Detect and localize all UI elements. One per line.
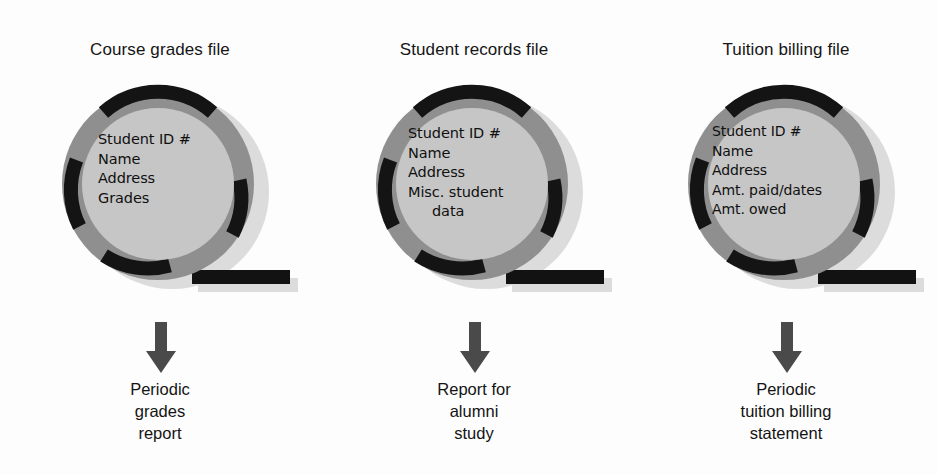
disk-platter-icon: Student ID # Name Address Misc. student … (360, 74, 600, 302)
output-line: alumni (318, 400, 630, 422)
file-column-student-records: Student records file Student ID # Name A… (318, 0, 630, 475)
file-column-course-grades: Course grades file (4, 0, 316, 475)
down-arrow-icon (144, 322, 178, 374)
down-arrow-icon (770, 322, 804, 374)
output-line: Periodic (630, 378, 937, 400)
output-line: Periodic (4, 378, 316, 400)
output-line: study (318, 422, 630, 444)
output-report-label: Periodic grades report (4, 378, 316, 444)
down-arrow-icon (458, 322, 492, 374)
file-environment-diagram: Course grades file (0, 0, 937, 475)
output-line: grades (4, 400, 316, 422)
output-line: statement (630, 422, 937, 444)
output-line: tuition billing (630, 400, 937, 422)
output-line: report (4, 422, 316, 444)
output-line: Report for (318, 378, 630, 400)
disk-platter-icon: Student ID # Name Address Amt. paid/date… (672, 74, 912, 302)
file-title: Course grades file (4, 40, 316, 60)
file-column-tuition-billing: Tuition billing file Student ID # Name A… (630, 0, 937, 475)
output-report-label: Periodic tuition billing statement (630, 378, 937, 444)
file-title: Tuition billing file (630, 40, 937, 60)
output-report-label: Report for alumni study (318, 378, 630, 444)
file-title: Student records file (318, 40, 630, 60)
disk-platter-icon: Student ID # Name Address Grades (46, 74, 286, 302)
